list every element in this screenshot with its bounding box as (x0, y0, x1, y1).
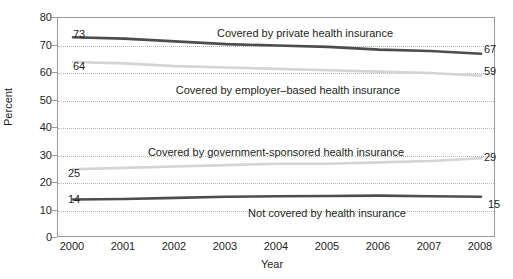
x-axis-title: Year (242, 258, 302, 270)
plot-area (57, 17, 495, 237)
endpoint-label-67-1: 67 (484, 44, 496, 55)
endpoint-label-14-6: 14 (68, 194, 80, 205)
y-tick-label-60: 60 (6, 67, 52, 78)
x-axis: 200020012002200320042005200620072008 (57, 237, 495, 259)
y-tick-label-70: 70 (6, 39, 52, 50)
endpoint-label-25-4: 25 (68, 168, 80, 179)
y-tick-label-80: 80 (6, 12, 52, 23)
series-line-2 (73, 158, 481, 169)
endpoint-label-64-2: 64 (73, 61, 85, 72)
series-annotation-3: Not covered by health insurance (248, 208, 406, 219)
y-axis-title: Percent (2, 77, 14, 137)
y-tick-label-20: 20 (6, 177, 52, 188)
series-annotation-2: Covered by government-sponsored health i… (148, 147, 404, 158)
series-line-3 (73, 196, 481, 200)
y-tick-label-30: 30 (6, 149, 52, 160)
series-annotation-0: Covered by private health insurance (217, 28, 393, 39)
series-line-0 (73, 37, 481, 54)
chart-screenshot: 01020304050607080 Percent 20002001200220… (0, 0, 513, 279)
endpoint-label-59-3: 59 (484, 66, 496, 77)
series-line-1 (73, 62, 481, 76)
x-tick-label-2008: 2008 (450, 241, 510, 252)
series-annotation-1: Covered by employer–based health insuran… (176, 85, 400, 96)
y-tick-label-10: 10 (6, 204, 52, 215)
endpoint-label-15-7: 15 (488, 199, 500, 210)
endpoint-label-29-5: 29 (484, 152, 496, 163)
endpoint-label-73-0: 73 (73, 29, 85, 40)
series-lines (58, 18, 496, 238)
